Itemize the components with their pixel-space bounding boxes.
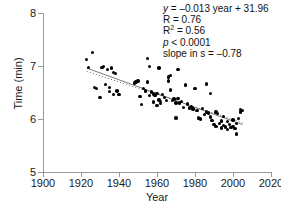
y-tick: [38, 13, 43, 14]
data-point: [199, 117, 202, 120]
data-point: [237, 117, 240, 120]
data-point: [148, 94, 151, 97]
data-point: [106, 68, 109, 71]
data-point: [169, 88, 172, 91]
y-tick-label: 5: [22, 167, 36, 178]
plot-area: 56781900192019401960198020002020 Time (m…: [0, 0, 281, 206]
data-point: [104, 83, 107, 86]
r-squared-rest: = 0.56: [174, 25, 205, 36]
data-point: [180, 100, 183, 103]
data-point: [140, 103, 143, 106]
annotation-slope: slope in s = –0.78: [163, 48, 269, 59]
data-point: [176, 97, 179, 100]
annotation-equation: y = –0.013 year + 31.96: [163, 3, 269, 14]
data-point: [148, 65, 151, 68]
data-point: [136, 79, 139, 82]
x-tick-label: 1980: [175, 178, 215, 189]
data-point: [205, 82, 208, 85]
data-point: [220, 119, 223, 122]
x-tick-label: 2000: [213, 178, 253, 189]
data-point: [210, 119, 213, 122]
data-point: [195, 109, 198, 112]
annotation-r-squared: R2 = 0.56: [163, 25, 269, 36]
data-point: [165, 99, 168, 102]
data-point: [85, 58, 88, 61]
data-point: [174, 116, 177, 119]
data-point: [216, 112, 219, 115]
data-point: [117, 93, 120, 96]
x-tick-label: 1960: [137, 178, 177, 189]
equation-rest: = –0.013 year + 31.96: [168, 3, 269, 14]
data-point: [157, 66, 160, 69]
data-point: [110, 66, 113, 69]
data-point: [241, 109, 244, 112]
data-point: [222, 115, 225, 118]
data-point: [91, 51, 94, 54]
x-tick-label: 2020: [251, 178, 281, 189]
data-point: [193, 87, 196, 90]
data-point: [108, 86, 111, 89]
data-point: [114, 72, 117, 75]
x-axis-title: Year: [43, 192, 271, 203]
data-point: [209, 92, 212, 95]
x-tick-label: 1920: [61, 178, 101, 189]
annotation-p-value: p < 0.0001: [163, 37, 269, 48]
data-point: [102, 65, 105, 68]
data-point: [201, 107, 204, 110]
x-tick-label: 1940: [99, 178, 139, 189]
y-axis-line: [43, 13, 44, 173]
data-point: [233, 127, 236, 130]
scatter-plot-figure: 56781900192019401960198020002020 Time (m…: [0, 0, 281, 206]
data-point: [235, 122, 238, 125]
data-point: [144, 89, 147, 92]
x-tick-label: 1900: [23, 178, 63, 189]
annotation-r: R = 0.76: [163, 14, 269, 25]
data-point: [155, 104, 158, 107]
data-point: [182, 106, 185, 109]
data-point: [169, 74, 172, 77]
y-tick-label: 6: [22, 114, 36, 125]
data-point: [159, 102, 162, 105]
y-tick-label: 7: [22, 61, 36, 72]
data-point: [231, 118, 234, 121]
data-point: [235, 132, 238, 135]
data-point: [167, 79, 170, 82]
data-point: [146, 57, 149, 60]
data-point: [184, 83, 187, 86]
data-point: [138, 95, 141, 98]
y-tick-label: 8: [22, 8, 36, 19]
data-point: [146, 80, 149, 83]
y-tick: [38, 119, 43, 120]
data-point: [152, 100, 155, 103]
data-point: [108, 90, 111, 93]
data-point: [95, 87, 98, 90]
statistics-annotation: y = –0.013 year + 31.96 R = 0.76 R2 = 0.…: [163, 3, 269, 59]
data-point: [214, 125, 217, 128]
data-point: [87, 66, 90, 69]
data-point: [98, 96, 101, 99]
y-axis-title: Time (min): [13, 44, 24, 124]
data-point: [176, 68, 179, 71]
p-rest: < 0.0001: [169, 37, 211, 48]
data-point: [155, 92, 158, 95]
data-point: [112, 93, 115, 96]
y-tick: [38, 66, 43, 67]
